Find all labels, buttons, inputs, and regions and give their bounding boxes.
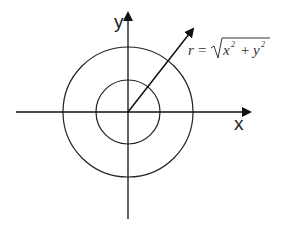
formula-y-exp: 2: [261, 40, 265, 49]
formula-plus: +: [240, 42, 250, 58]
formula-x-exp: 2: [231, 40, 235, 49]
diagram-canvas: y x r = x 2 + y 2: [0, 0, 282, 229]
formula-x: x: [222, 42, 230, 58]
x-axis-label: x: [234, 113, 244, 134]
y-axis-label: y: [114, 11, 124, 32]
radius-formula: r = x 2 + y 2: [188, 38, 270, 58]
formula-y: y: [251, 42, 260, 58]
polar-diagram: y x r = x 2 + y 2: [0, 0, 282, 229]
radius-vector-arrow: [128, 29, 193, 112]
formula-r: r: [188, 42, 194, 58]
formula-equals: =: [197, 42, 207, 58]
